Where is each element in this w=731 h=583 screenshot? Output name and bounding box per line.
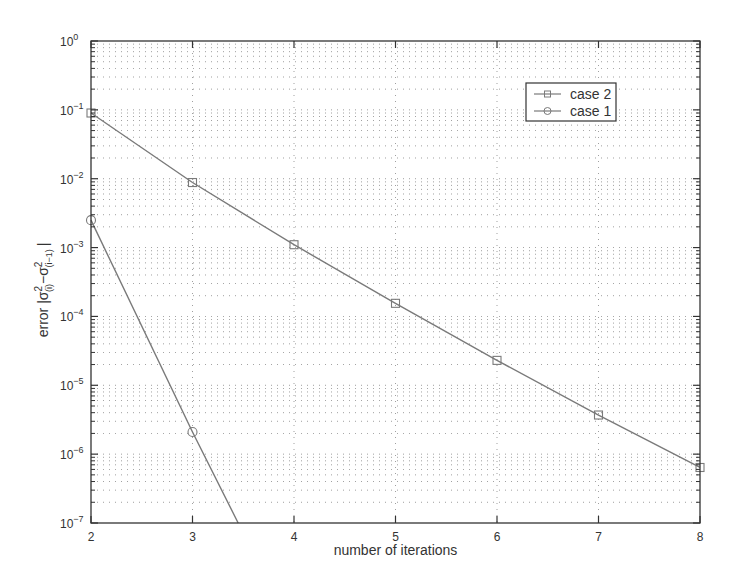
y-axis-label: error |σ2(i)−σ2(i−1)| [33,243,54,338]
y-tick-label: 10−5 [60,376,84,393]
x-tick-label: 4 [291,530,298,544]
x-tick-label: 7 [595,530,602,544]
svg-text:case 1: case 1 [570,103,611,119]
y-tick-label: 10−4 [60,307,84,324]
x-axis-label: number of iterations [334,542,458,558]
data-series [87,109,705,523]
y-axis-tick-labels: 10010−110−210−310−410−510−610−7 [60,32,84,531]
svg-text:case 2: case 2 [570,86,611,102]
series-case-1 [87,216,239,523]
series-case-2 [87,109,704,471]
chart: 10010−110−210−310−410−510−610−7 2345678 … [0,0,731,583]
x-tick-label: 8 [697,530,704,544]
legend: case 2 case 1 [526,83,616,121]
y-tick-label: 10−6 [60,445,84,462]
x-tick-label: 2 [88,530,95,544]
y-tick-label: 10−1 [60,101,84,118]
svg-text:error |σ2(i)−σ2(i−1)|: error |σ2(i)−σ2(i−1)| [33,243,54,338]
x-tick-label: 6 [494,530,501,544]
y-tick-label: 100 [60,32,78,49]
y-tick-label: 10−7 [60,514,84,531]
y-tick-label: 10−2 [60,170,84,187]
y-tick-label: 10−3 [60,239,84,256]
x-tick-label: 3 [189,530,196,544]
